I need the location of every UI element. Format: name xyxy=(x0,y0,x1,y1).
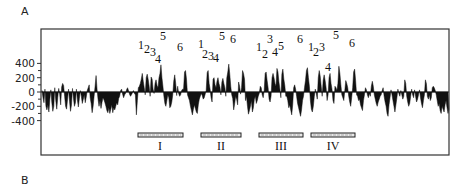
region-label: III xyxy=(275,139,287,153)
y-tick-label: -400 xyxy=(11,115,35,127)
peak-label: 6 xyxy=(349,36,355,50)
peak-label: 4 xyxy=(155,52,161,66)
y-tick-label: 200 xyxy=(15,72,35,84)
peak-label: 5 xyxy=(278,39,284,53)
peak-label: 3 xyxy=(267,32,273,46)
peak-label: 6 xyxy=(297,32,303,46)
y-tick-label: -200 xyxy=(11,100,35,112)
profile-waveform xyxy=(42,64,449,116)
region-bars: IIIIIIIV xyxy=(138,133,355,153)
region-label: II xyxy=(217,139,225,153)
peak-label: 4 xyxy=(325,60,331,74)
y-tick-label: 400 xyxy=(15,57,35,69)
peak-label: 3 xyxy=(319,40,325,54)
peak-label: 6 xyxy=(177,40,183,54)
peak-label: 4 xyxy=(213,51,219,65)
peak-label: 5 xyxy=(160,29,166,43)
y-axis: 4002000-200-400 xyxy=(11,57,41,126)
peak-label: 5 xyxy=(219,29,225,43)
region-label: IV xyxy=(327,139,340,153)
region-label: I xyxy=(158,139,162,153)
peak-label: 6 xyxy=(230,32,236,46)
peak-label: 2 xyxy=(262,47,268,61)
profile-chart: 4002000-200-400 IIIIIIIV 123456123456123… xyxy=(0,0,459,189)
y-tick-label: 0 xyxy=(28,86,35,98)
peak-label: 5 xyxy=(333,28,339,42)
peak-labels: 123456123456123456123456 xyxy=(138,28,355,74)
